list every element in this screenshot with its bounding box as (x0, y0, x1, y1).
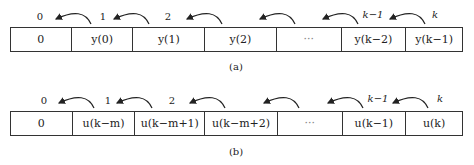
buffer-row-b: 0 u(k−m) u(k−m+1) u(k−m+2) ··· u(k−1) u(… (10, 111, 463, 136)
buffer-cell-ellipsis: ··· (278, 112, 343, 135)
index-label: k (432, 9, 438, 20)
index-label: 1 (100, 11, 106, 22)
index-label: 0 (41, 95, 47, 106)
index-label: 2 (169, 95, 175, 106)
buffer-cell: u(k−1) (343, 112, 407, 135)
buffer-cell: y(1) (133, 28, 205, 51)
buffer-cell: u(k−m+1) (135, 112, 205, 135)
index-label: k (437, 93, 443, 104)
buffer-cell: 0 (11, 112, 73, 135)
buffer-cell: y(2) (205, 28, 277, 51)
index-label: 2 (165, 11, 171, 22)
index-label: k−1 (368, 93, 389, 104)
index-label: 1 (105, 95, 111, 106)
shift-arrows-a (0, 0, 474, 165)
buffer-cell: 0 (11, 28, 72, 51)
buffer-cell: u(k−m+2) (205, 112, 278, 135)
caption-b: (b) (229, 146, 243, 157)
buffer-cell: y(k−2) (342, 28, 407, 51)
index-label: k−1 (363, 9, 384, 20)
buffer-cell-ellipsis: ··· (277, 28, 342, 51)
buffer-row-a: 0 y(0) y(1) y(2) ··· y(k−2) y(k−1) (10, 27, 463, 52)
caption-a: (a) (229, 61, 243, 72)
buffer-cell: y(k−1) (406, 28, 462, 51)
index-label: 0 (37, 11, 43, 22)
buffer-cell: u(k) (406, 112, 462, 135)
buffer-cell: y(0) (72, 28, 134, 51)
buffer-cell: u(k−m) (73, 112, 136, 135)
